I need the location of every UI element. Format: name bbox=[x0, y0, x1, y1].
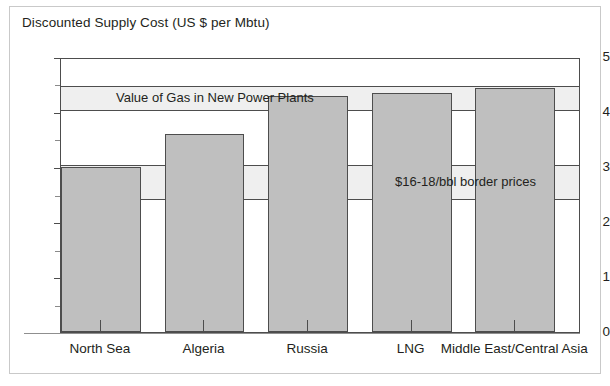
y-tick-label-0: 0 bbox=[576, 324, 610, 339]
band-label-border-prices: $16-18/bbl border prices bbox=[395, 174, 536, 189]
bar-russia[interactable] bbox=[268, 96, 348, 332]
bar-algeria[interactable] bbox=[165, 134, 245, 332]
x-label-algeria: Algeria bbox=[182, 341, 224, 356]
y-tick-label-5: 5 bbox=[576, 49, 610, 64]
x-axis-line bbox=[24, 333, 580, 334]
x-tick-middle-east-central-asia bbox=[514, 320, 515, 333]
x-tick-lng bbox=[411, 320, 412, 333]
band-label-value-of-gas: Value of Gas in New Power Plants bbox=[116, 90, 314, 105]
bar-middle-east-central-asia[interactable] bbox=[475, 88, 555, 332]
y-tick-label-3: 3 bbox=[576, 159, 610, 174]
x-label-north-sea: North Sea bbox=[69, 341, 130, 356]
x-tick-russia bbox=[307, 320, 308, 333]
chart-title: Discounted Supply Cost (US $ per Mbtu) bbox=[22, 15, 270, 30]
bar-north-sea[interactable] bbox=[61, 167, 141, 332]
x-label-russia: Russia bbox=[286, 341, 327, 356]
x-label-lng: LNG bbox=[397, 341, 425, 356]
x-tick-algeria bbox=[203, 320, 204, 333]
x-tick-north-sea bbox=[100, 320, 101, 333]
bar-lng[interactable] bbox=[372, 93, 452, 332]
x-label-middle-east-central-asia: Middle East/Central Asia bbox=[441, 341, 588, 356]
y-tick-label-1: 1 bbox=[576, 269, 610, 284]
y-tick-label-2: 2 bbox=[576, 214, 610, 229]
chart-figure: Discounted Supply Cost (US $ per Mbtu) 5… bbox=[0, 0, 610, 386]
plot-area: Value of Gas in New Power Plants $16-18/… bbox=[60, 58, 580, 333]
y-tick-label-4: 4 bbox=[576, 104, 610, 119]
